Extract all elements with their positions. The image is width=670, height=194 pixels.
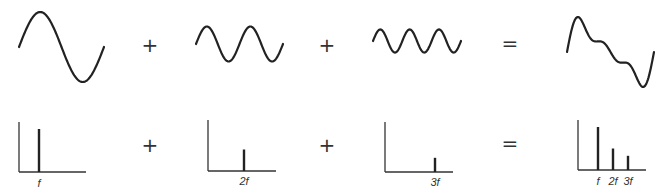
fundamental-wave (19, 12, 104, 82)
frequency-label-2f: 2f (239, 176, 248, 187)
spectrum-second-harmonic (208, 120, 276, 171)
frequency-label-3f: 3f (430, 177, 439, 188)
spectrum-sum (578, 120, 646, 170)
sum-label-f: f (596, 176, 599, 187)
plus-operator: + (319, 35, 336, 55)
fourier-diagram (0, 0, 670, 194)
sum-wave (567, 17, 654, 87)
plus-operator: + (319, 135, 336, 155)
plus-operator: + (142, 135, 159, 155)
third-harmonic-wave (373, 29, 461, 52)
spectrum-fundamental (19, 122, 86, 172)
second-harmonic-wave (196, 27, 283, 62)
equals-operator: = (502, 133, 519, 153)
sum-label-3f: 3f (623, 176, 632, 187)
spectrum-third-harmonic (385, 122, 453, 172)
plus-operator: + (142, 35, 159, 55)
frequency-label-f: f (37, 178, 40, 189)
equals-operator: = (502, 33, 519, 53)
sum-label-2f: 2f (608, 176, 617, 187)
